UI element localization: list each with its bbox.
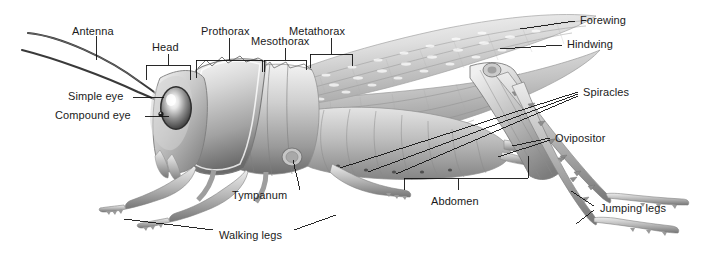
label-tympanum: Tympanum [232, 190, 287, 201]
label-ovipositor: Ovipositor [555, 133, 606, 144]
label-forewing: Forewing [580, 15, 626, 26]
label-prothorax: Prothorax [201, 26, 250, 37]
label-hindwing: Hindwing [567, 39, 613, 50]
simple-eye-shape [158, 111, 163, 116]
tympanum-shape [282, 148, 302, 166]
label-metathorax: Metathorax [289, 26, 345, 37]
label-walking-legs: Walking legs [219, 230, 282, 241]
compound-eye-shape [160, 86, 192, 130]
label-spiracles: Spiracles [583, 87, 629, 98]
anatomy-figure: Antenna Head Prothorax Mesothorax Metath… [0, 0, 704, 254]
label-compound-eye: Compound eye [55, 110, 131, 121]
label-jumping-legs: Jumping legs [600, 203, 666, 214]
label-simple-eye: Simple eye [68, 91, 123, 102]
label-abdomen: Abdomen [431, 196, 479, 207]
label-mesothorax: Mesothorax [251, 36, 309, 47]
label-antenna: Antenna [72, 26, 114, 37]
label-head: Head [152, 42, 179, 53]
